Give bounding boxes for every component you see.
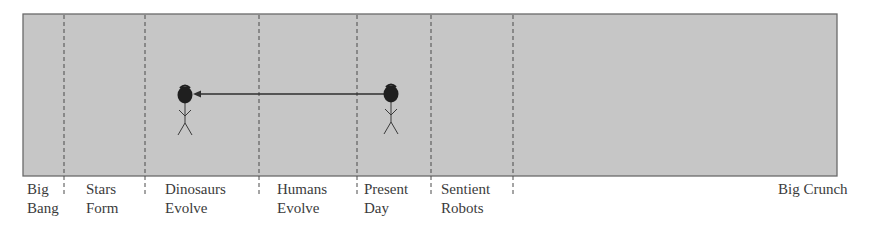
era-label-line1: Big Crunch xyxy=(778,180,848,199)
era-label-sentient-robots: SentientRobots xyxy=(441,180,490,218)
era-label-dinosaurs-evolve: DinosaursEvolve xyxy=(165,180,226,218)
era-label-line2: Evolve xyxy=(277,199,327,218)
era-label-stars-form: StarsForm xyxy=(86,180,119,218)
era-label-line1: Humans xyxy=(277,180,327,199)
era-label-line1: Sentient xyxy=(441,180,490,199)
era-label-big-bang: BigBang xyxy=(27,180,59,218)
era-label-big-crunch: Big Crunch xyxy=(778,180,848,199)
era-label-line1: Stars xyxy=(86,180,119,199)
era-label-line2: Bang xyxy=(27,199,59,218)
era-label-line1: Present xyxy=(364,180,408,199)
era-label-line2: Robots xyxy=(441,199,490,218)
era-label-line2: Evolve xyxy=(165,199,226,218)
era-label-line2: Day xyxy=(364,199,408,218)
era-label-present-day: PresentDay xyxy=(364,180,408,218)
era-label-line1: Dinosaurs xyxy=(165,180,226,199)
era-label-line1: Big xyxy=(27,180,59,199)
era-label-humans-evolve: HumansEvolve xyxy=(277,180,327,218)
era-label-line2: Form xyxy=(86,199,119,218)
